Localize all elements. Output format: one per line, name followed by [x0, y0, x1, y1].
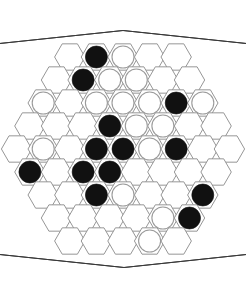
white-marble[interactable]: [192, 92, 214, 114]
black-marble[interactable]: [112, 138, 134, 160]
white-marble[interactable]: [125, 69, 147, 91]
black-marble[interactable]: [72, 69, 94, 91]
black-marble[interactable]: [72, 161, 94, 183]
black-marble[interactable]: [19, 161, 41, 183]
white-marble[interactable]: [32, 138, 54, 160]
black-marble[interactable]: [85, 138, 107, 160]
white-marble[interactable]: [32, 92, 54, 114]
white-marble[interactable]: [99, 69, 121, 91]
black-marble[interactable]: [85, 184, 107, 206]
black-marble[interactable]: [85, 46, 107, 68]
black-marble[interactable]: [165, 138, 187, 160]
white-marble[interactable]: [112, 92, 134, 114]
black-marble[interactable]: [179, 207, 201, 229]
white-marble[interactable]: [152, 115, 174, 137]
white-marble[interactable]: [139, 92, 161, 114]
black-marble[interactable]: [99, 115, 121, 137]
black-marble[interactable]: [99, 161, 121, 183]
abalone-board[interactable]: [0, 0, 246, 296]
white-marble[interactable]: [112, 46, 134, 68]
white-marble[interactable]: [125, 115, 147, 137]
white-marble[interactable]: [85, 92, 107, 114]
white-marble[interactable]: [112, 184, 134, 206]
black-marble[interactable]: [165, 92, 187, 114]
white-marble[interactable]: [139, 138, 161, 160]
white-marble[interactable]: [152, 207, 174, 229]
black-marble[interactable]: [192, 184, 214, 206]
abalone-board-container: [0, 0, 246, 296]
white-marble[interactable]: [139, 230, 161, 252]
